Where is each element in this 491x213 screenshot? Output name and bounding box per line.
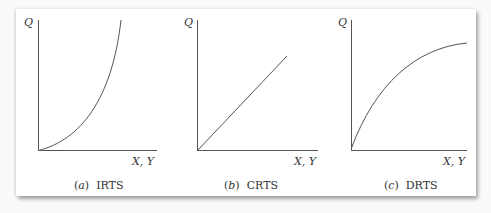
curve-crts (198, 56, 288, 151)
x-label-c: X, Y (443, 155, 465, 168)
y-label-a: Q (24, 16, 33, 29)
y-label-c: Q (338, 16, 347, 29)
caption-b: (b) CRTS (224, 179, 278, 192)
x-label-a: X, Y (132, 155, 154, 168)
graph-a (39, 20, 158, 151)
x-label-b: X, Y (294, 155, 316, 168)
caption-c: (c) DRTS (384, 179, 438, 192)
graph-b (198, 20, 319, 151)
y-label-b: Q (184, 16, 193, 29)
graph-c (352, 20, 468, 151)
curve-irts (39, 20, 122, 151)
curve-drts (352, 43, 468, 148)
caption-a: (a) IRTS (74, 179, 123, 192)
